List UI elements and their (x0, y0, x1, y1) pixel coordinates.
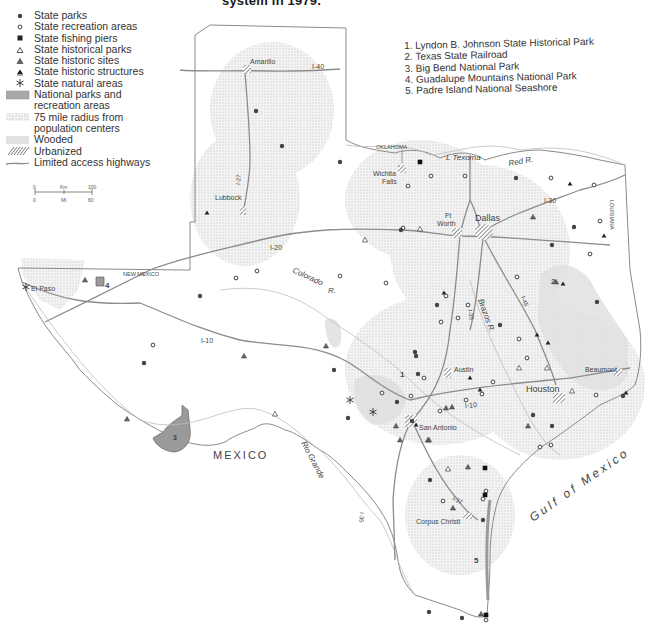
urban-lubbock (240, 207, 246, 215)
urban-dallas (475, 224, 493, 240)
label-amarillo: Amarillo (250, 58, 275, 65)
scale-mi-start: 0 (33, 195, 36, 206)
label-mexico: MEXICO (213, 449, 268, 461)
state-park-marker (413, 350, 417, 354)
label-i27: I-27 (235, 174, 242, 185)
filled-square-icon (6, 34, 34, 42)
scale-km-start: 0 (33, 182, 36, 193)
state-park-marker (428, 478, 432, 482)
recreation-area-marker (439, 320, 443, 324)
historical-park-marker (272, 411, 277, 416)
fishing-pier-marker (484, 613, 489, 618)
label-el-paso: El Paso (31, 285, 55, 292)
state-park-marker (531, 413, 535, 417)
recreation-area-marker (525, 356, 529, 360)
asterisk-icon (6, 78, 34, 88)
recreation-area-marker (438, 409, 442, 413)
shaded-triangle-icon (6, 57, 34, 65)
urban-fort-worth (452, 228, 462, 238)
rio-grande (22, 282, 415, 595)
big-bend-national-park (153, 405, 190, 452)
legend-item-radius-cont: population centers (6, 123, 150, 134)
recreation-area-marker (466, 303, 470, 307)
open-circle-icon (6, 23, 34, 31)
historic-structure-marker (602, 234, 607, 238)
label-wichita-2: Falls (382, 178, 397, 185)
state-park-marker (416, 372, 420, 376)
scale-km-end: 100 (88, 182, 96, 193)
hatched-swatch-icon (6, 146, 34, 156)
state-park-marker (346, 416, 350, 420)
historic-site-marker (478, 611, 483, 616)
scale-km-label: Km (60, 182, 68, 193)
scale-mi-label: Mi (61, 195, 66, 206)
radius-lubbock (190, 130, 300, 266)
recreation-area-marker (491, 380, 495, 384)
legend: State parks State recreation areas State… (6, 10, 150, 204)
recreation-area-marker (538, 445, 542, 449)
historic-site-marker (82, 277, 87, 282)
recreation-area-marker (481, 497, 485, 501)
historic-structure-marker (568, 182, 573, 186)
fishing-pier-marker (418, 160, 423, 165)
recreation-area-marker (380, 391, 384, 395)
recreation-area-marker (409, 394, 413, 398)
scale-mi-end: 60 (88, 195, 94, 206)
legend-item-national-parks-cont: recreation areas (6, 100, 150, 111)
urban-amarillo (243, 65, 251, 73)
label-site-5: 5 (474, 556, 479, 565)
label-red-river: Red R. (508, 155, 534, 168)
scale-bar: 0 Km 100 0 Mi 60 (32, 182, 102, 204)
urban-wichita (398, 165, 406, 173)
urban-austin (444, 368, 451, 378)
filled-triangle-bar-icon (6, 68, 34, 76)
legend-item-recreation-areas: State recreation areas (6, 21, 150, 32)
guadalupe-mountains-park (96, 277, 104, 286)
recreation-area-marker (151, 343, 155, 347)
state-park-marker (595, 300, 599, 304)
recreation-area-marker (406, 184, 410, 188)
highway-line-icon (6, 158, 34, 168)
numbered-sites-list: 1. Lyndon B. Johnson State Historical Pa… (404, 36, 595, 97)
label-colorado: Colorado (291, 266, 325, 288)
recreation-area-marker (515, 275, 519, 279)
urban-houston (553, 393, 565, 403)
state-park-marker (514, 176, 518, 180)
historic-site-marker (124, 416, 129, 421)
label-wichita-1: Wichita (373, 170, 396, 177)
gray-swatch-icon (6, 90, 34, 100)
light-swatch-icon (6, 135, 34, 145)
state-park-marker (550, 424, 554, 428)
recreation-area-marker (441, 499, 445, 503)
recreation-area-marker (422, 376, 426, 380)
label-ftworth-2: Worth (437, 220, 456, 227)
legend-item-highways: Limited access highways (6, 157, 150, 168)
label-i20: I-20 (270, 244, 282, 251)
state-park-marker (427, 610, 431, 614)
recreation-area-marker (594, 393, 598, 397)
recreation-area-marker (384, 281, 388, 285)
label-site-1: 1 (400, 370, 405, 379)
filled-circle-icon (6, 12, 34, 20)
recreation-area-marker (598, 219, 602, 223)
label-site-4: 4 (105, 281, 110, 290)
recreation-area-marker (484, 618, 488, 622)
recreation-area-marker (549, 176, 553, 180)
state-park-marker (572, 225, 576, 229)
state-park-marker (332, 368, 336, 372)
recreation-area-marker (463, 174, 467, 178)
recreation-area-marker (588, 252, 592, 256)
state-park-marker (435, 303, 439, 307)
label-corpus: Corpus Christi (416, 518, 461, 526)
state-park-marker (142, 361, 146, 365)
label-texoma: L Texoma (446, 153, 481, 162)
historic-site-marker (323, 343, 328, 348)
label-rio-grande: Rio Grande (299, 440, 326, 481)
label-i35-south: I-35 (358, 512, 365, 523)
recreation-area-marker (234, 276, 238, 280)
fishing-pier-marker (483, 466, 488, 471)
label-louisiana: LOUISIANA (609, 200, 615, 230)
label-i30: I-30 (544, 197, 556, 204)
open-triangle-icon (6, 46, 34, 54)
label-san-antonio: San Antonio (419, 424, 457, 431)
